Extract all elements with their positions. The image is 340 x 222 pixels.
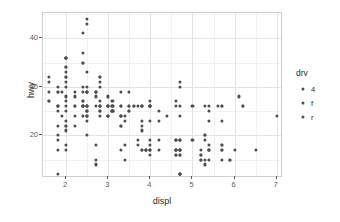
scatter-point [86,90,89,93]
x-tick-label: 4 [139,180,159,189]
scatter-point [124,143,127,146]
scatter-point [275,114,278,117]
scatter-point [98,109,101,112]
scatter-point [98,100,101,103]
x-tick-mark [191,176,192,179]
scatter-point [56,85,59,88]
scatter-point [140,129,143,132]
gridline-minor-horizontal [43,63,281,64]
scatter-point [149,105,152,108]
scatter-point [86,22,89,25]
scatter-point [119,114,122,117]
scatter-point [56,139,59,142]
scatter-point [73,105,76,108]
scatter-point [98,76,101,79]
legend-item-4[interactable]: 4 [296,82,340,96]
scatter-point [254,148,257,151]
scatter-point [48,76,51,79]
scatter-point [56,105,59,108]
scatter-point [86,134,89,137]
scatter-point [174,100,177,103]
gridline-major-horizontal [43,38,281,39]
scatter-point [65,85,68,88]
scatter-point [204,139,207,142]
scatter-point [56,90,59,93]
scatter-point [65,56,68,59]
scatter-point [86,114,89,117]
scatter-point [111,109,114,112]
scatter-plot-figure: hwy 203040 234567 displ drv 4fr [0,0,340,222]
scatter-point [145,148,148,151]
y-tick-label: 30 [20,81,38,90]
legend-item-f[interactable]: f [296,96,340,110]
x-axis-title: displ [42,196,282,206]
x-tick: 2 [55,180,75,190]
scatter-point [140,105,143,108]
scatter-point [124,114,127,117]
gridline-minor-horizontal [43,160,281,161]
x-tick-mark [107,176,108,179]
scatter-point [65,109,68,112]
scatter-point [149,153,152,156]
scatter-point [65,71,68,74]
scatter-point [204,158,207,161]
scatter-point [81,100,84,103]
scatter-point [128,105,131,108]
scatter-point [178,148,181,151]
scatter-point [220,143,223,146]
scatter-point [65,95,68,98]
scatter-point [199,158,202,161]
gridline-minor-horizontal [43,14,281,15]
scatter-point [119,124,122,127]
scatter-point [111,100,114,103]
y-tick-label: 40 [20,33,38,42]
scatter-point [48,90,51,93]
scatter-point [140,124,143,127]
scatter-point [233,148,236,151]
scatter-point [81,85,84,88]
scatter-point [98,85,101,88]
scatter-point [65,143,68,146]
scatter-point [98,80,101,83]
gridline-minor-horizontal [43,111,281,112]
legend-items: 4fr [296,82,340,124]
scatter-point [208,109,211,112]
scatter-point [199,153,202,156]
scatter-point [107,114,110,117]
scatter-point [94,95,97,98]
scatter-point [94,143,97,146]
scatter-point [119,105,122,108]
legend-marker-icon [296,97,309,110]
scatter-point [56,173,59,176]
scatter-point [81,51,84,54]
scatter-point [204,163,207,166]
scatter-point [128,90,131,93]
scatter-point [73,95,76,98]
x-tick: 6 [224,180,244,190]
scatter-point [178,153,181,156]
scatter-point [65,119,68,122]
gridline-major-horizontal [43,135,281,136]
scatter-point [220,119,223,122]
scatter-point [98,105,101,108]
scatter-point [60,114,63,117]
legend-marker-icon [296,111,309,124]
scatter-point [65,129,68,132]
x-tick: 7 [266,180,286,190]
scatter-point [140,148,143,151]
scatter-point [86,119,89,122]
scatter-point [157,109,160,112]
scatter-point [81,90,84,93]
legend-item-label: 4 [311,85,315,94]
scatter-point [178,105,181,108]
legend: drv 4fr [296,68,340,124]
scatter-point [119,148,122,151]
scatter-point [94,163,97,166]
x-tick: 5 [181,180,201,190]
scatter-point [178,85,181,88]
x-tick-label: 7 [266,180,286,189]
scatter-point [216,105,219,108]
scatter-point [166,114,169,117]
scatter-point [81,114,84,117]
legend-item-r[interactable]: r [296,110,340,124]
